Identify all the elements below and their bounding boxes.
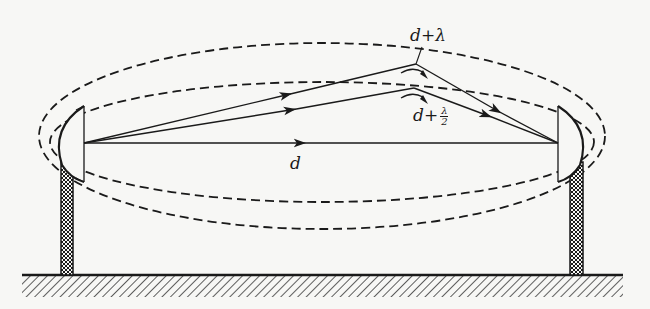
label-d-text: d: [290, 153, 301, 173]
right-mast: [570, 162, 583, 275]
label-d-plus-lambda-text: d+λ: [410, 25, 446, 45]
label-d: d: [290, 155, 301, 172]
diagram-drawing: [0, 0, 650, 309]
label-d-plus-half-lambda: d+λ2: [413, 106, 448, 127]
label-d-plus-lambda: d+λ: [410, 27, 446, 44]
fraction-denominator: 2: [440, 117, 448, 127]
fresnel-zone-diagram: d+λ d+λ2 d: [0, 0, 650, 309]
ground: [22, 275, 623, 297]
left-mast: [61, 162, 73, 275]
ray-d-plus-half-lambda: [84, 88, 558, 143]
inner-fresnel-ellipse: [50, 82, 594, 202]
label-half-prefix: d+: [413, 105, 438, 125]
fraction-lambda-over-2: λ2: [440, 106, 448, 127]
